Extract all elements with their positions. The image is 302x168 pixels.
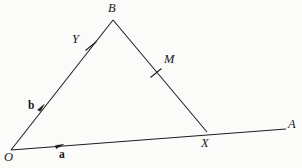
tick-mark-Y <box>86 42 97 51</box>
label-vector-b: b <box>28 100 34 112</box>
vector-b-arrowhead <box>38 104 45 111</box>
side-BX <box>113 20 207 132</box>
label-point-Y: Y <box>72 33 79 46</box>
label-point-X: X <box>201 137 209 150</box>
label-point-B: B <box>108 2 116 15</box>
label-point-M: M <box>164 53 174 66</box>
figure-canvas <box>0 0 302 168</box>
side-OB <box>11 20 113 150</box>
geometry-figure: O B A X Y M a b <box>0 0 302 168</box>
label-point-O: O <box>4 151 13 164</box>
ray-OA <box>11 129 286 150</box>
label-point-A: A <box>288 118 296 131</box>
label-vector-a: a <box>59 149 65 161</box>
